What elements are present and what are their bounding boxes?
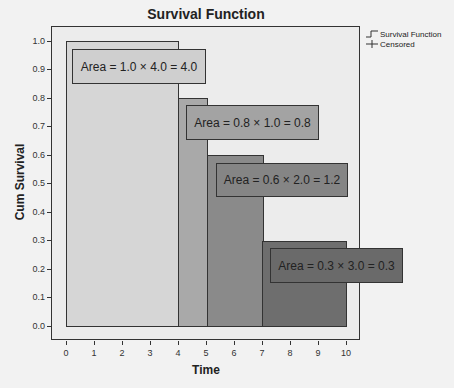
x-tick-mark	[66, 341, 67, 345]
step-line-icon	[366, 30, 378, 38]
y-tick-label: 1.0	[21, 36, 45, 46]
y-tick-mark	[47, 183, 51, 184]
x-axis-label: Time	[51, 363, 361, 377]
x-tick-label: 5	[198, 348, 214, 358]
y-tick-mark	[47, 155, 51, 156]
x-tick-mark	[318, 341, 319, 345]
y-tick-label: 0.9	[21, 64, 45, 74]
x-tick-label: 9	[310, 348, 326, 358]
x-tick-mark	[234, 341, 235, 345]
chart-title: Survival Function	[51, 6, 361, 22]
x-tick-mark	[262, 341, 263, 345]
y-axis-label: Cum Survival	[13, 132, 27, 232]
area-annotation-1: Area = 1.0 × 4.0 = 4.0	[72, 49, 206, 84]
legend-item-survival: Survival Function	[366, 29, 441, 39]
y-tick-mark	[47, 69, 51, 70]
y-tick-label: 0.3	[21, 235, 45, 245]
y-tick-label: 0.1	[21, 292, 45, 302]
x-tick-mark	[122, 341, 123, 345]
x-tick-label: 0	[58, 348, 74, 358]
y-tick-mark	[47, 98, 51, 99]
area-annotation-3: Area = 0.6 × 2.0 = 1.2	[216, 163, 348, 197]
y-tick-mark	[47, 297, 51, 298]
y-tick-label: 0.0	[21, 321, 45, 331]
y-tick-label: 0.2	[21, 264, 45, 274]
x-tick-mark	[290, 341, 291, 345]
legend-item-censored: Censored	[366, 39, 441, 49]
x-tick-label: 1	[86, 348, 102, 358]
y-tick-mark	[47, 240, 51, 241]
legend: Survival Function Censored	[366, 29, 441, 49]
y-tick-mark	[47, 212, 51, 213]
y-tick-mark	[47, 126, 51, 127]
y-tick-label: 0.8	[21, 93, 45, 103]
x-tick-label: 6	[226, 348, 242, 358]
x-tick-label: 10	[338, 348, 354, 358]
x-tick-mark	[346, 341, 347, 345]
area-annotation-2: Area = 0.8 × 1.0 = 0.8	[186, 105, 319, 140]
x-tick-mark	[178, 341, 179, 345]
y-tick-mark	[47, 41, 51, 42]
y-tick-mark	[47, 269, 51, 270]
x-tick-label: 8	[282, 348, 298, 358]
x-tick-mark	[206, 341, 207, 345]
y-tick-mark	[47, 326, 51, 327]
y-tick-label: 0.7	[21, 121, 45, 131]
legend-label: Survival Function	[380, 30, 441, 39]
x-tick-mark	[94, 341, 95, 345]
x-tick-label: 3	[142, 348, 158, 358]
x-tick-mark	[150, 341, 151, 345]
legend-label: Censored	[380, 40, 415, 49]
plus-marker-icon	[366, 40, 378, 48]
x-tick-label: 2	[114, 348, 130, 358]
x-tick-label: 4	[170, 348, 186, 358]
x-tick-label: 7	[254, 348, 270, 358]
area-annotation-4: Area = 0.3 × 3.0 = 0.3	[270, 248, 403, 283]
